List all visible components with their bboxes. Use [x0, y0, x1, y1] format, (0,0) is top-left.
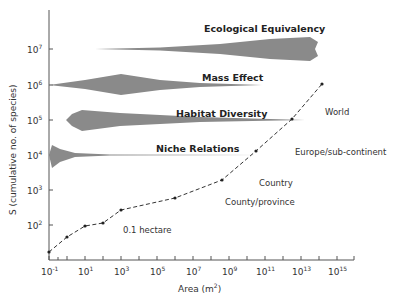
europe-subcontinent-label: Europe/sub-continent [295, 147, 387, 157]
x-tick-label: 107 [186, 265, 201, 277]
habitat-diversity-label: Habitat Diversity [176, 108, 268, 119]
y-tick-label: 106 [27, 79, 42, 91]
county-province-label: County/province [225, 197, 295, 207]
niche-relations-label: Niche Relations [156, 143, 240, 154]
x-tick-label: 103 [114, 265, 129, 277]
x-tick-labels: 10-1 101 103 105 107 109 1011 1013 1015 [41, 265, 347, 277]
y-tick-label: 102 [27, 219, 42, 231]
y-tick-label: 105 [27, 114, 42, 126]
species-area-chart: 10-1 101 103 105 107 109 1011 1013 1015 … [0, 0, 395, 306]
data-point [220, 178, 223, 181]
data-point [173, 196, 176, 199]
x-axis-title: Area (m2) [178, 282, 221, 294]
x-tick-label: 105 [150, 265, 165, 277]
x-axis-ticks [49, 256, 354, 260]
data-point [320, 82, 323, 85]
x-tick-label: 1013 [292, 265, 311, 277]
y-tick-label: 104 [27, 149, 42, 161]
y-axis-title: S (cumulative no. of species) [8, 85, 18, 215]
ecological-equivalency-label: Ecological Equivalency [204, 23, 326, 34]
ecological-equivalency-band [95, 37, 318, 61]
x-tick-label: 109 [222, 265, 237, 277]
y-tick-label: 107 [27, 43, 42, 55]
x-tick-label: 1015 [328, 265, 347, 277]
data-point [254, 149, 257, 152]
data-point [65, 235, 68, 238]
world-label: World [325, 107, 349, 117]
data-point [290, 117, 293, 120]
mass-effect-label: Mass Effect [202, 72, 264, 83]
x-tick-label: 101 [78, 265, 93, 277]
hectare-label: 0.1 hectare [123, 225, 172, 235]
x-tick-label: 1011 [256, 265, 275, 277]
country-label: Country [259, 178, 293, 188]
data-point [101, 221, 104, 224]
data-point [83, 224, 86, 227]
x-tick-label: 10-1 [41, 265, 59, 277]
data-point [119, 208, 122, 211]
y-tick-label: 103 [27, 184, 42, 196]
data-point [47, 250, 50, 253]
y-tick-labels: 107 106 105 104 103 102 [27, 43, 42, 231]
y-axis-ticks [49, 49, 53, 225]
